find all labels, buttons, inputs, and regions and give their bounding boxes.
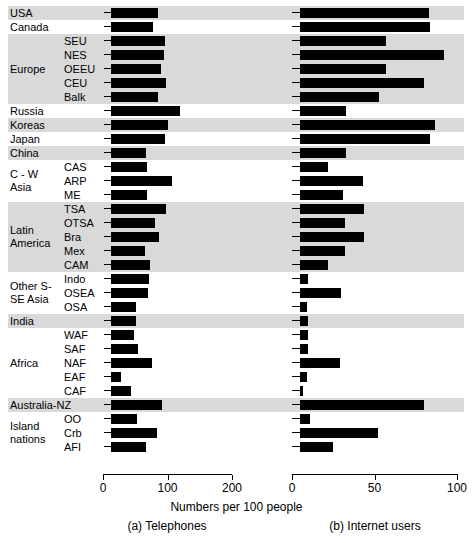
panel-telephones-row <box>104 426 240 440</box>
panel-telephones-row <box>104 48 240 62</box>
row-tick-telephones <box>104 292 111 293</box>
panel-telephones-row <box>104 174 240 188</box>
axis-tick <box>375 475 376 480</box>
bar-internet <box>300 288 341 298</box>
bar-telephones <box>111 428 157 438</box>
panel-telephones-row <box>104 146 240 160</box>
bar-telephones <box>111 232 159 242</box>
chart-row <box>8 398 464 412</box>
region-group: IslandnationsOOCrbAFI <box>8 412 464 454</box>
bar-telephones <box>111 316 136 326</box>
row-tick-telephones <box>104 166 111 167</box>
row-tick-internet <box>292 264 300 265</box>
panel-telephones-row <box>104 314 240 328</box>
bar-telephones <box>111 218 155 228</box>
bar-telephones <box>111 8 158 18</box>
axis-tick-label: 100 <box>157 481 177 495</box>
bar-telephones <box>111 50 164 60</box>
chart-row: SEU <box>8 34 464 48</box>
bar-internet <box>300 78 424 88</box>
region-group: Koreas <box>8 118 464 132</box>
panel-internet-row <box>292 90 458 104</box>
panel-internet-row <box>292 356 458 370</box>
row-tick-telephones <box>104 110 111 111</box>
panel-internet-row <box>292 314 458 328</box>
row-tick-telephones <box>104 236 111 237</box>
panel-internet-row <box>292 202 458 216</box>
bar-internet <box>300 106 346 116</box>
bar-telephones <box>111 204 166 214</box>
row-tick-internet <box>292 292 300 293</box>
chart-row: Indo <box>8 272 464 286</box>
panel-telephones-row <box>104 356 240 370</box>
panel-internet-row <box>292 286 458 300</box>
bar-internet <box>300 190 343 200</box>
chart-row: Bra <box>8 230 464 244</box>
axis-tick <box>103 475 104 480</box>
row-tick-internet <box>292 138 300 139</box>
bar-telephones <box>111 78 166 88</box>
panel-telephones-row <box>104 216 240 230</box>
bar-telephones <box>111 330 134 340</box>
panel-telephones-row <box>104 160 240 174</box>
panel-telephones-row <box>104 188 240 202</box>
panel-internet-row <box>292 272 458 286</box>
panel-telephones-row <box>104 398 240 412</box>
row-tick-telephones <box>104 180 111 181</box>
panel-internet-row <box>292 412 458 426</box>
bar-internet <box>300 204 364 214</box>
bar-telephones <box>111 148 146 158</box>
chart-row: ME <box>8 188 464 202</box>
bar-telephones <box>111 358 152 368</box>
axis-tick <box>292 475 293 480</box>
row-tick-internet <box>292 250 300 251</box>
chart-row: CAS <box>8 160 464 174</box>
bar-telephones <box>111 162 147 172</box>
panel-telephones-row <box>104 20 240 34</box>
row-tick-telephones <box>104 222 111 223</box>
bar-internet <box>300 232 364 242</box>
region-group: USA <box>8 6 464 20</box>
chart-row <box>8 20 464 34</box>
bar-telephones <box>111 190 147 200</box>
panel-internet-row <box>292 328 458 342</box>
row-tick-internet <box>292 180 300 181</box>
row-tick-internet <box>292 432 300 433</box>
region-group: Australia-NZ <box>8 398 464 412</box>
panel-telephones-row <box>104 300 240 314</box>
row-tick-internet <box>292 152 300 153</box>
panel-telephones-row <box>104 132 240 146</box>
axis-tick-label: 100 <box>447 481 467 495</box>
bar-internet <box>300 8 429 18</box>
panel-caption-telephones: (a) Telephones <box>127 519 206 533</box>
panel-internet-row <box>292 160 458 174</box>
panel-internet-row <box>292 174 458 188</box>
bar-internet <box>300 316 308 326</box>
chart-row: AFI <box>8 440 464 454</box>
x-axis-title: Numbers per 100 people <box>0 500 473 514</box>
chart-row: TSA <box>8 202 464 216</box>
figure-container: USACanadaEuropeSEUNESOEEUCEUBalkRussiaKo… <box>0 0 473 543</box>
chart-row: SAF <box>8 342 464 356</box>
region-group: China <box>8 146 464 160</box>
row-tick-telephones <box>104 404 111 405</box>
panel-internet-row <box>292 104 458 118</box>
panel-internet-row <box>292 48 458 62</box>
chart-row: CEU <box>8 76 464 90</box>
row-tick-internet <box>292 334 300 335</box>
panel-telephones-row <box>104 90 240 104</box>
bar-telephones <box>111 400 162 410</box>
chart-row: NAF <box>8 356 464 370</box>
row-tick-internet <box>292 404 300 405</box>
bar-telephones <box>111 442 146 452</box>
bar-telephones <box>111 176 172 186</box>
panel-internet-row <box>292 188 458 202</box>
panel-internet-row <box>292 398 458 412</box>
chart-row: Balk <box>8 90 464 104</box>
bar-internet <box>300 344 308 354</box>
axis-tick-label: 0 <box>100 481 107 495</box>
chart-row: NES <box>8 48 464 62</box>
bar-internet <box>300 330 308 340</box>
row-tick-telephones <box>104 124 111 125</box>
chart-row: Crb <box>8 426 464 440</box>
